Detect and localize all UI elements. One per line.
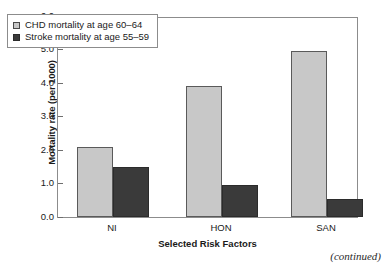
chart-legend: CHD mortality at age 60–64Stroke mortali… (7, 14, 158, 48)
y-tick-label: 0.0 (41, 211, 54, 223)
legend-label-1: CHD mortality at age 60–64 (25, 19, 142, 31)
bar-ni-series-1[interactable] (77, 147, 113, 217)
y-tick-label: 4.0 (41, 77, 54, 89)
bar-hon-series-2[interactable] (222, 185, 258, 217)
continued-note: (continued) (330, 250, 381, 262)
bar-san-series-1[interactable] (291, 51, 327, 217)
bar-san-series-2[interactable] (327, 199, 363, 217)
bar-ni-series-2[interactable] (113, 167, 149, 217)
x-tick-label-hon: HON (185, 222, 257, 233)
bar-group-hon (186, 18, 258, 217)
x-tick-label-ni: NI (76, 222, 148, 233)
y-tick-label: 1.0 (41, 177, 54, 189)
bar-hon-series-1[interactable] (186, 86, 222, 217)
legend-swatch-icon-2 (13, 34, 20, 41)
bar-group-san (291, 18, 363, 217)
bar-chart-figure: Mortality rate (per 1000) 0.01.02.03.04.… (0, 0, 387, 266)
y-tick-label: 3.0 (41, 110, 54, 122)
x-tick-label-san: SAN (290, 222, 362, 233)
legend-item-1[interactable]: CHD mortality at age 60–64 (13, 19, 149, 31)
legend-label-2: Stroke mortality at age 55–59 (25, 31, 149, 43)
x-axis-title: Selected Risk Factors (57, 238, 358, 249)
y-tick-label: 2.0 (41, 144, 54, 156)
legend-item-2[interactable]: Stroke mortality at age 55–59 (13, 31, 149, 43)
legend-swatch-icon-1 (13, 22, 20, 29)
